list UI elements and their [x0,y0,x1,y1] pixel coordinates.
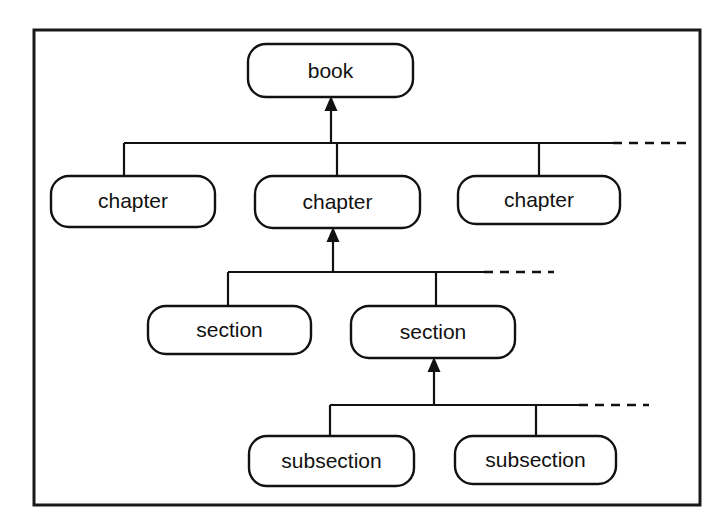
node-subsection-1-label: subsection [281,449,381,472]
edge-group-chapters-to-book [124,96,686,176]
node-chapter-1-label: chapter [98,189,168,212]
node-section-1-label: section [196,318,263,341]
arrowhead-to-chapter-2 [327,227,340,242]
node-subsection-1[interactable]: subsection [249,436,414,486]
node-chapter-1[interactable]: chapter [51,176,215,227]
node-section-2[interactable]: section [351,306,515,358]
node-chapter-3[interactable]: chapter [458,176,620,224]
node-subsection-2[interactable]: subsection [455,436,616,484]
edge-group-subsections-to-section [330,357,649,436]
arrowhead-to-book [325,96,338,111]
node-book[interactable]: book [248,44,413,97]
node-chapter-3-label: chapter [504,188,574,211]
diagram-frame [34,30,700,505]
node-book-label: book [308,59,354,82]
edge-group-sections-to-chapter [228,227,554,306]
node-chapter-2-label: chapter [302,190,372,213]
node-section-2-label: section [400,320,467,343]
diagram-canvas: book chapter chapter chapter section sec… [0,0,725,531]
hierarchy-diagram: book chapter chapter chapter section sec… [0,0,725,531]
arrowhead-to-section-2 [428,357,441,372]
node-section-1[interactable]: section [148,306,311,354]
node-subsection-2-label: subsection [485,448,585,471]
node-chapter-2[interactable]: chapter [255,176,420,228]
